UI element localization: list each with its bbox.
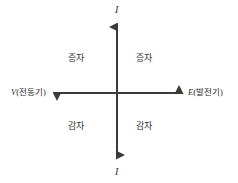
horizontal-axis-left-label: V(전동기) (11, 88, 46, 97)
vertical-axis-bottom-label: I (115, 167, 118, 177)
horizontal-axis-left-text: (전동기) (16, 87, 46, 97)
vertical-axis-top-label: I (115, 5, 118, 15)
quadrant-label-top-left: 증자 (68, 54, 84, 63)
quadrant-label-top-right: 증자 (136, 54, 152, 63)
quadrant-label-bottom-left: 감자 (68, 122, 84, 131)
quadrant-diagram: I I V(전동기) E(발전기) 증자 증자 감자 감자 (0, 0, 238, 183)
horizontal-axis-right-label: E(발전기) (188, 88, 223, 97)
quadrant-label-bottom-right: 감자 (136, 122, 152, 131)
horizontal-axis-right-text: (발전기) (193, 87, 223, 97)
